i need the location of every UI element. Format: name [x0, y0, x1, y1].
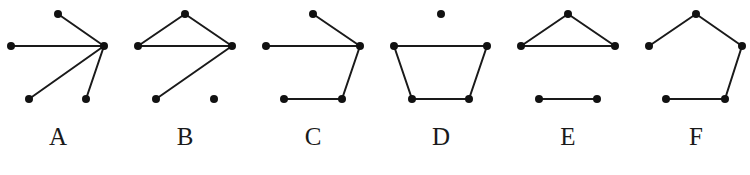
- vertex-a-2: [100, 42, 108, 50]
- edge-a-3-2: [29, 46, 104, 99]
- vertex-b-0: [181, 10, 189, 18]
- edge-c-2-4: [342, 46, 360, 99]
- vertex-c-0: [309, 10, 317, 18]
- vertex-a-3: [25, 95, 33, 103]
- panel-label-f: F: [689, 123, 703, 150]
- edge-a-0-2: [58, 14, 104, 46]
- vertex-f-2: [738, 42, 746, 50]
- edge-b-2-3: [156, 46, 232, 99]
- vertex-a-1: [7, 42, 15, 50]
- edge-e-0-1: [521, 14, 568, 46]
- vertex-e-0: [564, 10, 572, 18]
- edge-d-1-3: [394, 46, 412, 99]
- edge-f-0-1: [649, 14, 696, 46]
- vertex-a-0: [54, 10, 62, 18]
- vertex-c-1: [262, 42, 270, 50]
- panel-d: D: [390, 10, 491, 150]
- vertex-f-4: [721, 95, 729, 103]
- vertex-f-0: [692, 10, 700, 18]
- vertex-b-1: [134, 42, 142, 50]
- vertex-a-4: [82, 95, 90, 103]
- vertex-e-1: [517, 42, 525, 50]
- vertex-c-3: [280, 95, 288, 103]
- vertex-b-2: [228, 42, 236, 50]
- edge-e-0-2: [568, 14, 615, 46]
- vertex-d-4: [465, 95, 473, 103]
- edge-c-0-2: [313, 14, 360, 46]
- panel-label-d: D: [432, 123, 450, 150]
- graph-diagram: A B C D E F: [0, 0, 750, 175]
- vertex-d-2: [483, 42, 491, 50]
- vertex-d-0: [437, 10, 445, 18]
- panel-label-c: C: [305, 123, 322, 150]
- vertex-d-1: [390, 42, 398, 50]
- vertex-d-3: [408, 95, 416, 103]
- vertex-b-4: [210, 95, 218, 103]
- edge-b-0-1: [138, 14, 185, 46]
- vertex-f-3: [662, 95, 670, 103]
- vertex-e-2: [611, 42, 619, 50]
- panel-label-e: E: [560, 123, 575, 150]
- vertex-b-3: [152, 95, 160, 103]
- panel-a: A: [7, 10, 108, 150]
- panel-f: F: [645, 10, 746, 150]
- panel-c: C: [262, 10, 364, 150]
- panel-label-a: A: [49, 123, 67, 150]
- panel-e: E: [517, 10, 619, 150]
- edge-f-2-4: [725, 46, 742, 99]
- vertex-c-4: [338, 95, 346, 103]
- edge-d-2-4: [469, 46, 487, 99]
- edge-b-0-2: [185, 14, 232, 46]
- edge-f-0-2: [696, 14, 742, 46]
- edge-a-4-2: [86, 46, 104, 99]
- panel-b: B: [134, 10, 236, 150]
- vertex-f-1: [645, 42, 653, 50]
- vertex-e-4: [593, 95, 601, 103]
- vertex-e-3: [535, 95, 543, 103]
- vertex-c-2: [356, 42, 364, 50]
- panel-label-b: B: [177, 123, 194, 150]
